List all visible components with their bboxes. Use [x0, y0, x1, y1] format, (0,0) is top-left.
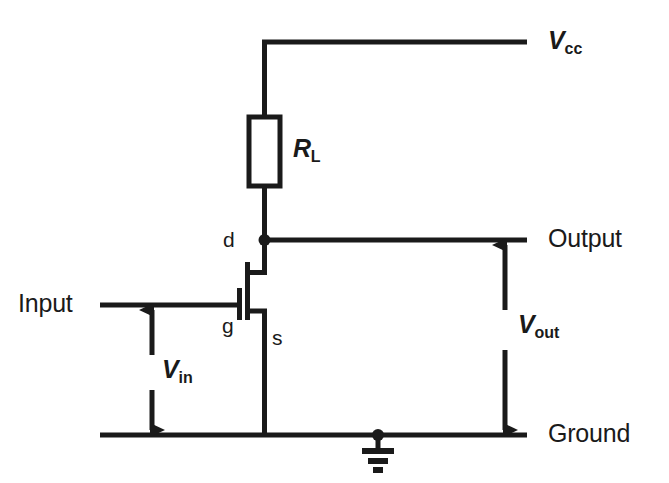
- vin-measurement-label: Vin: [162, 357, 193, 382]
- load-resistor-label: RL: [293, 136, 320, 161]
- vout-measurement-label: Vout: [518, 312, 559, 337]
- input-rail-label: Input: [18, 291, 73, 316]
- vin-symbol: V: [162, 355, 178, 383]
- vcc-symbol: V: [548, 26, 564, 54]
- circuit-diagram-canvas: Vcc RL Output Ground Input d g s Vin Vou…: [0, 0, 669, 483]
- ground-rail-label: Ground: [548, 421, 630, 446]
- source-terminal-label: s: [272, 327, 282, 348]
- gate-terminal-label: g: [222, 315, 233, 336]
- output-rail-label: Output: [548, 226, 622, 251]
- vout-subscript: out: [534, 324, 559, 341]
- vcc-subscript: cc: [564, 40, 582, 57]
- vin-subscript: in: [178, 369, 192, 386]
- vout-symbol: V: [518, 310, 534, 338]
- resistor-subscript: L: [311, 148, 321, 165]
- drain-terminal-label: d: [223, 229, 234, 250]
- drain-terminal-wire: [248, 240, 265, 273]
- source-terminal-wire: [248, 311, 265, 435]
- load-resistor-body: [249, 117, 280, 186]
- vcc-rail-label: Vcc: [548, 28, 582, 53]
- resistor-symbol: R: [293, 134, 311, 162]
